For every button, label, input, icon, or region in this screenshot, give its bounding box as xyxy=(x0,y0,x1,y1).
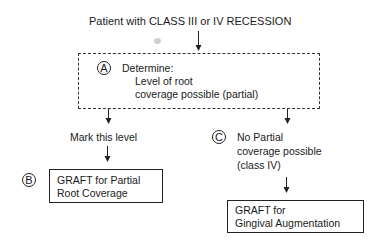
node-b-line1: GRAFT for Partial xyxy=(57,174,140,187)
node-a-dashed-box xyxy=(78,53,320,109)
diagram-title: Patient with CLASS III or IV RECESSION xyxy=(89,15,291,28)
marker-b: B xyxy=(22,173,36,187)
mark-level-label: Mark this level xyxy=(70,131,137,144)
node-c-line2: coverage possible xyxy=(237,145,322,158)
node-b-line2: Root Coverage xyxy=(57,187,128,200)
marker-c: C xyxy=(212,130,226,144)
node-gingival-line1: GRAFT for xyxy=(235,204,286,217)
node-a-heading: Determine: xyxy=(122,62,173,75)
node-c-line3: (class IV) xyxy=(237,159,281,172)
node-gingival-line2: Gingival Augmentation xyxy=(235,217,340,230)
node-c-line1: No Partial xyxy=(237,131,283,144)
marker-a: A xyxy=(97,61,111,75)
scan-smudge xyxy=(154,38,161,44)
node-a-line1: Level of root xyxy=(135,75,193,88)
node-a-line2: coverage possible (partial) xyxy=(135,88,258,101)
